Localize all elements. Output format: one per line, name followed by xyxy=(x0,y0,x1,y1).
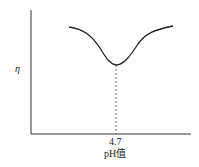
y-axis-label: η xyxy=(15,64,20,74)
x-axis-label: pH值 xyxy=(104,149,126,159)
curve xyxy=(69,26,173,65)
x-tick-label: 4.7 xyxy=(109,137,122,147)
chart xyxy=(0,0,199,167)
